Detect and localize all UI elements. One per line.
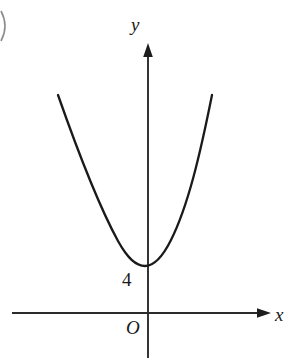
- y-axis-arrowhead-icon: [143, 43, 153, 57]
- x-axis-arrowhead-icon: [257, 308, 271, 318]
- y-intercept-value-label: 4: [122, 270, 132, 289]
- y-axis-label: y: [131, 15, 139, 34]
- origin-label: O: [126, 318, 140, 337]
- parabola-curve: [58, 95, 212, 266]
- figure-canvas: y x O 4: [0, 0, 291, 358]
- x-axis-label: x: [275, 305, 283, 324]
- partial-parenthesis-mark: [1, 11, 5, 41]
- coordinate-plane-graphic: [0, 0, 291, 358]
